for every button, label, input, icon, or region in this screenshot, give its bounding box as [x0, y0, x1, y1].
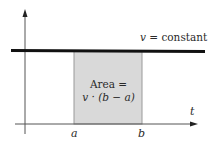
constant-velocity-line: [11, 51, 205, 52]
tick-label-a: a: [71, 127, 78, 140]
diagram-graphics: [0, 0, 212, 147]
y-axis-arrow-icon: [23, 9, 28, 17]
x-axis-label: t: [190, 105, 194, 118]
area-line-2: v · (b − a): [74, 91, 143, 104]
velocity-time-diagram: v = constant Area = v · (b − a) t a b: [0, 0, 212, 147]
area-formula-label: Area = v · (b − a): [74, 78, 143, 104]
tick-label-b: b: [138, 127, 145, 140]
constant-text: = constant: [146, 31, 207, 43]
constant-velocity-label: v = constant: [140, 31, 207, 43]
x-axis-arrow-icon: [190, 122, 198, 127]
area-line-1: Area =: [74, 78, 143, 91]
